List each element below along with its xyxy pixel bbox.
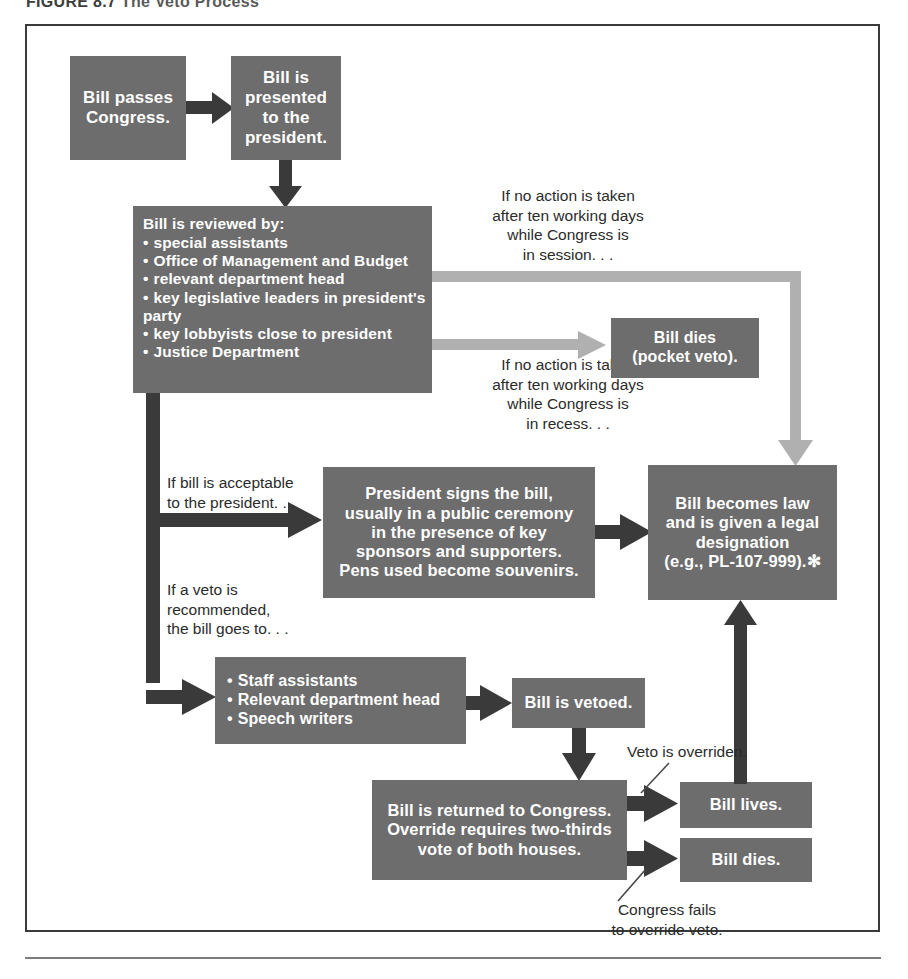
leader-line-veto-overridden — [640, 762, 670, 794]
trunk-vertical-main — [146, 393, 160, 683]
node-line: Bill becomes law — [675, 494, 810, 513]
node-line: president. — [245, 128, 327, 148]
review-item: special assistants — [143, 234, 426, 252]
node-bill-passes-congress: Bill passes Congress. — [70, 56, 186, 160]
node-bill-dies: Bill dies. — [680, 838, 812, 882]
node-line: Bill is vetoed. — [525, 693, 633, 712]
node-line: President signs the bill, — [365, 484, 553, 503]
arrow-returned-to-dies-head — [644, 840, 678, 877]
node-line: and is given a legal — [666, 513, 819, 532]
label-no-action-session: If no action is taken after ten working … — [443, 186, 693, 264]
node-line: Congress. — [86, 108, 170, 128]
node-line: (pocket veto). — [632, 348, 737, 367]
label-veto-overridden: Veto is overriden. — [627, 742, 857, 762]
node-line: sponsors and supporters. — [356, 542, 562, 561]
label-congress-fails: Congress fails to override veto. — [557, 900, 777, 939]
review-item: Justice Department — [143, 343, 426, 361]
node-line: Pens used become souvenirs. — [339, 561, 578, 580]
figure-title: FIGURE 8.7 The Veto Process — [26, 0, 626, 15]
node-line: to the — [263, 108, 310, 128]
gray-recess-shaft — [432, 339, 584, 350]
review-item: key legislative leaders in president's — [143, 289, 426, 307]
figure-number: FIGURE 8.7 — [26, 0, 116, 10]
review-heading: Bill is reviewed by: — [143, 215, 285, 233]
staff-item: Staff assistants — [227, 672, 440, 691]
node-line: designation — [696, 533, 790, 552]
node-bill-is-vetoed: Bill is vetoed. — [512, 678, 645, 728]
leader-line-congress-fails — [617, 868, 647, 902]
review-list: special assistants Office of Management … — [143, 234, 426, 361]
node-line: presented — [245, 88, 327, 108]
node-line: Bill dies — [654, 329, 716, 348]
node-line: Bill lives. — [710, 795, 783, 814]
figure-page: FIGURE 8.7 The Veto Process Bill passes … — [0, 0, 908, 979]
node-line: in the presence of key — [371, 523, 547, 542]
node-bill-reviewed-by: Bill is reviewed by: special assistants … — [133, 206, 432, 393]
node-staff-assistants: Staff assistants Relevant department hea… — [215, 657, 466, 744]
branch-veto-head — [182, 679, 216, 715]
node-line: Bill passes — [83, 88, 173, 108]
node-line: Bill is — [263, 68, 309, 88]
node-bill-lives: Bill lives. — [680, 782, 812, 828]
node-bill-becomes-law: Bill becomes law and is given a legal de… — [648, 465, 837, 600]
branch-acceptable-shaft — [146, 513, 296, 527]
arrow-lives-to-law-head — [724, 600, 757, 625]
gray-session-segment-horizontal — [432, 271, 801, 282]
arrow-vetoed-to-returned-head — [562, 753, 596, 781]
figure-caption: The Veto Process — [121, 0, 259, 10]
review-item: relevant department head — [143, 270, 426, 288]
arrow-presented-to-review-head — [269, 186, 302, 208]
arrow-staff-to-vetoed-head — [480, 685, 512, 721]
gray-session-arrow-head — [778, 440, 813, 466]
node-line: usually in a public ceremony — [345, 504, 573, 523]
node-line: (e.g., PL-107-999).✻ — [664, 552, 820, 571]
node-line: Override requires two-thirds — [387, 820, 612, 839]
node-line: vote of both houses. — [418, 840, 581, 859]
review-item-cont: party — [143, 307, 426, 325]
gray-session-segment-vertical — [790, 271, 801, 446]
node-bill-returned-to-congress: Bill is returned to Congress. Override r… — [372, 780, 627, 880]
staff-list: Staff assistants Relevant department hea… — [227, 672, 440, 728]
node-president-signs: President signs the bill, usually in a p… — [323, 467, 595, 598]
node-bill-dies-pocket-veto: Bill dies (pocket veto). — [611, 318, 759, 378]
staff-item: Speech writers — [227, 710, 440, 729]
node-line: Bill dies. — [712, 850, 781, 869]
review-item: key lobbyists close to president — [143, 325, 426, 343]
node-line: Bill is returned to Congress. — [388, 801, 612, 820]
review-item: Office of Management and Budget — [143, 252, 426, 270]
staff-item: Relevant department head — [227, 691, 440, 710]
node-bill-presented: Bill is presented to the president. — [231, 56, 341, 160]
bottom-rule — [25, 957, 881, 959]
arrow-presented-to-review-shaft — [279, 160, 292, 189]
